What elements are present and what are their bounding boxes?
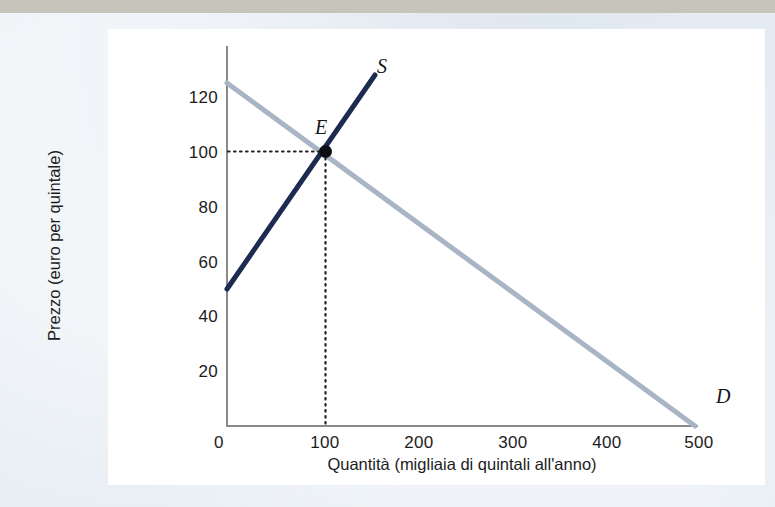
x-axis-title: Quantità (migliaia di quintali all'anno)	[227, 455, 697, 474]
page-background: S D E 120 100 80 60 40 20 0 100 200	[0, 0, 775, 507]
x-tick-200: 200	[389, 433, 449, 453]
y-tick-40: 40	[170, 307, 218, 325]
x-tick-300: 300	[483, 433, 543, 453]
x-tick-400: 400	[577, 433, 637, 453]
y-axis-title: Prezzo (euro per quintale)	[45, 96, 64, 396]
equilibrium-point-marker	[319, 145, 332, 158]
y-tick-20: 20	[170, 362, 218, 380]
y-tick-100: 100	[170, 143, 218, 161]
demand-curve-label: D	[716, 385, 730, 408]
supply-curve	[227, 75, 375, 289]
curves-layer	[0, 0, 775, 507]
supply-curve-label: S	[377, 55, 387, 78]
equilibrium-point-label: E	[315, 116, 327, 139]
x-tick-0: 0	[189, 433, 249, 453]
y-tick-60: 60	[170, 253, 218, 271]
y-tick-80: 80	[170, 198, 218, 216]
x-tick-100: 100	[295, 433, 355, 453]
supply-demand-chart: S D E 120 100 80 60 40 20 0 100 200	[0, 0, 775, 507]
demand-curve	[227, 83, 695, 426]
x-tick-500: 500	[669, 433, 729, 453]
y-tick-120: 120	[170, 88, 218, 106]
